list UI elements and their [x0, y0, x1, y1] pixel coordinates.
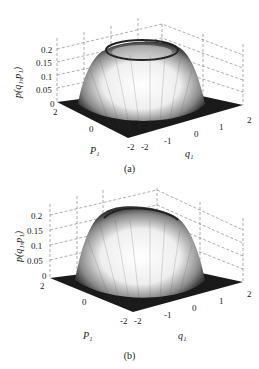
p-tick: -2	[120, 317, 128, 326]
z-tick: 0.05	[27, 257, 43, 266]
q-tick: 1	[219, 123, 224, 132]
q-axis-label: q₁	[178, 330, 186, 341]
panel-b: 0.2 0.15 0.1 0.05 0 p(q₁,p₁) 2 0 -2 -2 -…	[0, 180, 259, 369]
q-tick: 1	[219, 297, 224, 306]
panel-a: 0.2 0.15 0.1 0.05 0 p(q₁,p₁) 2 0 -2 -2 -…	[0, 0, 259, 180]
p-tick: 0	[89, 125, 94, 134]
z-tick: 0.15	[27, 227, 43, 236]
z-tick: 0.05	[36, 86, 52, 95]
q-tick: -2	[141, 143, 149, 152]
z-tick: 0.1	[41, 73, 52, 82]
q-tick: 2	[247, 290, 252, 299]
q-tick: -2	[134, 317, 142, 326]
q-tick: 2	[247, 116, 252, 125]
surface-plot-b	[0, 180, 259, 369]
z-axis-label: p(q₁,p₁)	[12, 67, 23, 98]
q-tick: -1	[164, 311, 172, 320]
p-axis-label: P₁	[90, 145, 100, 156]
q-tick: 0	[192, 304, 197, 313]
p-tick: 2	[40, 282, 45, 291]
z-tick: 0.2	[31, 212, 42, 221]
p-axis-label: P₁	[83, 330, 93, 341]
caption-b: (b)	[0, 350, 259, 361]
p-tick: 0	[82, 298, 87, 307]
z-tick: 0.1	[31, 242, 42, 251]
p-tick: -2	[127, 143, 135, 152]
q-axis-label: q₁	[185, 148, 193, 159]
p-tick: 2	[53, 108, 58, 117]
caption-a: (a)	[0, 163, 259, 174]
z-tick: 0.2	[41, 46, 52, 55]
z-tick: 0.15	[36, 59, 52, 68]
z-tick: 0	[42, 272, 47, 281]
q-tick: 0	[194, 130, 199, 139]
z-axis-label: p(q₁,p₁)	[13, 231, 24, 262]
q-tick: -1	[164, 137, 172, 146]
